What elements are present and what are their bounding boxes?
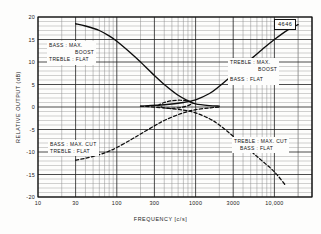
x-axis-label: FREQUENCY [c/s] xyxy=(0,216,321,222)
y-tick-label: 5 xyxy=(16,82,35,88)
annotation-treble-max-boost: TREBLE : MAX. BOOST BASS : FLAT xyxy=(228,58,279,85)
annotation-treble-boost-line2: BOOST xyxy=(230,66,277,73)
x-tick-label: 100 xyxy=(112,200,122,206)
annotation-bass-max-cut: BASS : MAX. CUT TREBLE : FLAT xyxy=(48,140,99,156)
figure-number: 4646 xyxy=(274,19,296,30)
annotation-treble-cut-line2: BASS : FLAT xyxy=(234,145,287,152)
x-tick-label: 3000 xyxy=(227,200,240,206)
x-tick-label: 10 xyxy=(35,200,42,206)
tone-control-response-figure: RELATIVE OUTPUT (dB) FREQUENCY [c/s] 103… xyxy=(0,0,321,234)
annotation-treble-cut-line1: TREBLE : MAX. CUT xyxy=(234,138,287,145)
y-tick-label: 15 xyxy=(16,37,35,43)
annotation-treble-boost-line1: TREBLE : MAX. xyxy=(230,59,277,66)
chart-canvas xyxy=(0,0,321,234)
y-tick-label: -15 xyxy=(16,172,35,178)
annotation-treble-max-cut: TREBLE : MAX. CUT BASS : FLAT xyxy=(232,137,289,153)
annotation-treble-boost-line3: BASS : FLAT xyxy=(230,73,277,83)
y-tick-label: -10 xyxy=(16,149,35,155)
annotation-bass-boost-line2: BOOST xyxy=(49,49,94,56)
y-tick-label: -20 xyxy=(16,194,35,200)
annotation-bass-cut-line2: TREBLE : FLAT xyxy=(50,148,97,155)
annotation-bass-max-boost: BASS : MAX. BOOST TREBLE : FLAT xyxy=(47,41,96,65)
annotation-bass-cut-line1: BASS : MAX. CUT xyxy=(50,141,97,148)
x-tick-label: 1000 xyxy=(189,200,202,206)
y-tick-label: -5 xyxy=(16,127,35,133)
y-tick-label: 0 xyxy=(16,104,35,110)
annotation-bass-boost-line3: TREBLE : FLAT xyxy=(49,56,94,63)
y-tick-label: 10 xyxy=(16,59,35,65)
x-tick-label: 30 xyxy=(72,200,79,206)
y-tick-label: 20 xyxy=(16,14,35,20)
x-tick-label: 300 xyxy=(149,200,159,206)
x-tick-label: 10,000 xyxy=(265,200,283,206)
annotation-bass-boost-line1: BASS : MAX. xyxy=(49,42,94,49)
curve-0 xyxy=(76,24,220,106)
